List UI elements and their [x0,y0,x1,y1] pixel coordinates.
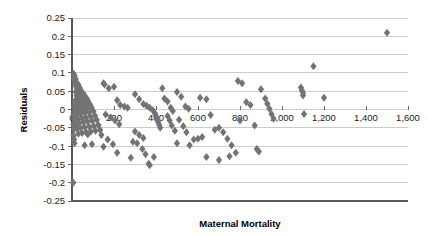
data-point [197,94,203,102]
y-tick-label: 0.25 [47,12,66,23]
data-point [301,110,307,118]
y-tick-label: 0 [60,104,65,115]
data-point [220,128,226,136]
data-point [207,111,213,119]
data-point [180,122,186,130]
data-point [310,62,316,70]
y-axis-tick-labels: 0.250.20.150.10.050-0.05-0.1-0.15-0.2-0.… [43,12,65,206]
data-point [105,136,111,144]
y-tick-label: -0.15 [43,159,65,170]
data-point [258,85,264,93]
y-axis-title: Residuals [18,88,29,133]
scatter-chart: 0.250.20.150.10.050-0.05-0.1-0.15-0.2-0.… [0,0,428,236]
data-point [114,149,120,157]
y-tick-label: -0.2 [49,177,65,188]
y-tick-label: -0.05 [43,122,65,133]
data-point [183,128,189,136]
data-point [128,154,134,162]
x-axis-tick-labels: 02004006008001,0001,2001,4001,600 [69,112,420,123]
chart-canvas: 0.250.20.150.10.050-0.05-0.1-0.15-0.2-0.… [0,0,428,236]
data-point [224,135,230,143]
data-points-group [70,29,390,187]
y-tick-label: 0.15 [47,49,66,60]
data-point [228,141,234,149]
data-point [252,122,258,130]
y-tick-label: -0.25 [43,195,65,206]
y-tick-label: 0.05 [47,86,66,97]
data-point [100,143,106,151]
data-point [151,153,157,161]
data-point [203,153,209,161]
data-point [136,95,142,103]
data-point [111,83,117,91]
data-point [81,141,87,149]
data-point [89,140,95,148]
data-point [70,179,76,187]
data-point [216,156,222,164]
y-tick-label: -0.1 [49,141,65,152]
data-point [203,95,209,103]
x-tick-label: 1,200 [312,112,336,123]
data-point [110,140,116,148]
data-point [233,149,239,157]
x-tick-label: 1,400 [354,112,378,123]
data-point [321,94,327,102]
x-tick-label: 600 [190,112,206,123]
data-point [174,88,180,96]
x-tick-label: 1,600 [396,112,420,123]
data-point [384,29,390,37]
data-point [178,93,184,101]
data-point [226,152,232,160]
data-point [186,141,192,149]
x-axis-title: Maternal Mortality [199,218,281,229]
y-tick-label: 0.2 [52,31,65,42]
data-point [176,116,182,124]
y-tick-label: 0.1 [52,67,65,78]
